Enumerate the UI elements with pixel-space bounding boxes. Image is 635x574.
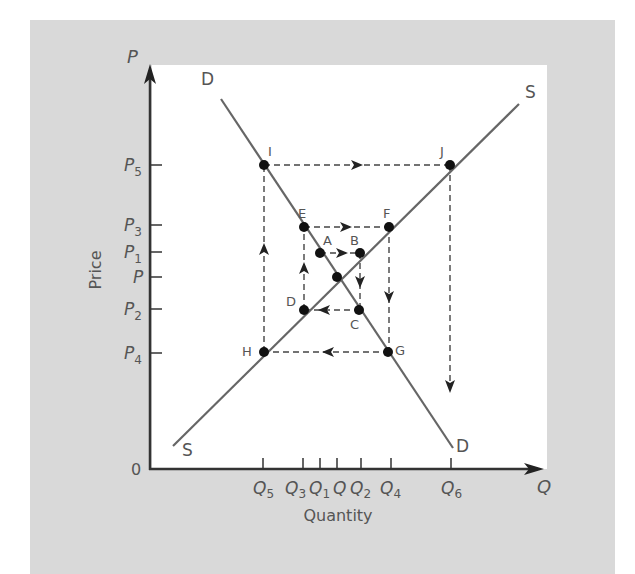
point-i (259, 160, 269, 170)
point-j (445, 160, 455, 170)
y-axis-title: Price (86, 250, 105, 289)
x-axis-symbol: Q (537, 476, 551, 497)
arrow-right-icon (351, 160, 363, 170)
point-f (384, 222, 394, 232)
label-e: E (298, 206, 306, 221)
label-f: F (383, 206, 390, 221)
svg-text:Q5: Q5 (253, 478, 274, 501)
svg-text:P1: P1 (124, 242, 142, 266)
svg-text:P4: P4 (124, 343, 142, 367)
point-d (299, 305, 309, 315)
label-a: A (323, 233, 332, 248)
svg-text:Q3: Q3 (285, 478, 306, 501)
equilibrium-point (332, 272, 342, 282)
svg-text:P2: P2 (124, 299, 142, 323)
demand-label-bottom: D (456, 436, 469, 456)
supply-label-bottom: S (182, 440, 193, 460)
point-g (383, 347, 393, 357)
arrow-down-icon (445, 380, 455, 393)
label-g: G (395, 343, 405, 358)
label-b: B (350, 233, 359, 248)
y-axis (144, 64, 156, 470)
arrow-left-icon (322, 347, 334, 357)
svg-text:Q1: Q1 (309, 478, 330, 501)
point-c (354, 305, 364, 315)
point-h (259, 347, 269, 357)
svg-text:Q: Q (333, 478, 346, 498)
arrow-up-icon (259, 243, 269, 255)
origin-label: 0 (131, 460, 141, 479)
x-ticks (263, 458, 451, 469)
arrow-right-icon (336, 248, 348, 258)
svg-text:P5: P5 (124, 155, 142, 179)
svg-text:Q6: Q6 (441, 478, 462, 501)
cobweb-diagram: A B C D E F G H I J D D S S P Q 0 P5 P3 … (0, 0, 635, 574)
supply-label-top: S (525, 82, 536, 102)
svg-text:P: P (133, 267, 144, 287)
arrow-up-icon (299, 262, 309, 274)
svg-text:P3: P3 (124, 215, 142, 239)
point-a (315, 248, 325, 258)
curve-labels: D D S S (182, 69, 536, 460)
y-tick-labels: P5 P3 P1 P P2 P4 (124, 155, 144, 367)
label-d: D (286, 294, 296, 309)
label-h: H (242, 344, 252, 359)
x-axis (149, 463, 544, 475)
x-axis-title: Quantity (303, 506, 372, 525)
label-i: I (268, 144, 272, 159)
x-tick-labels: Q5 Q3 Q1 Q Q2 Q4 Q6 (253, 478, 462, 501)
point-b (355, 248, 365, 258)
svg-text:Q4: Q4 (380, 478, 401, 501)
arrow-right-icon (340, 222, 352, 232)
supply-curve (173, 104, 519, 446)
label-c: C (350, 317, 359, 332)
y-axis-symbol: P (127, 46, 138, 67)
demand-label-top: D (201, 69, 214, 89)
cobweb-path (264, 165, 450, 385)
y-ticks (150, 165, 162, 353)
svg-text:Q2: Q2 (350, 478, 371, 501)
point-e (299, 222, 309, 232)
label-j: J (439, 144, 444, 159)
